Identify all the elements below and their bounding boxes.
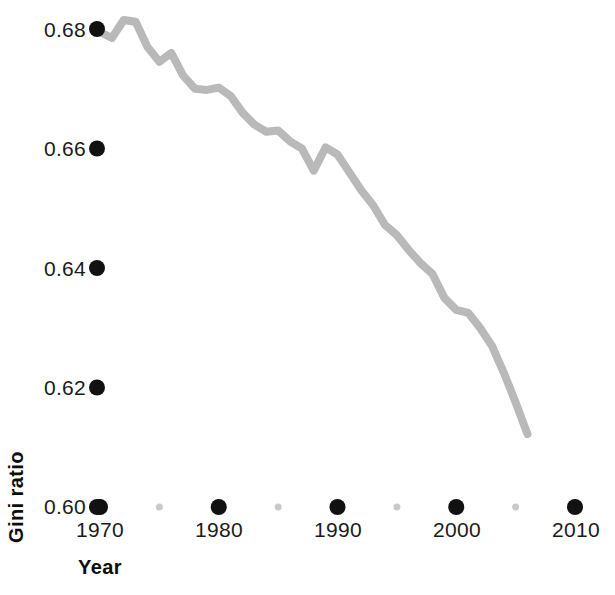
x-tick-dot-minor-2005 (512, 504, 519, 511)
y-tick-dot-06 (89, 499, 105, 515)
x-tick-label-2000: 2000 (412, 518, 502, 542)
y-tick-label-066: 0.66 (8, 137, 86, 161)
gini-ratio-series-line (100, 20, 528, 434)
x-tick-dot-2010 (567, 499, 583, 515)
x-tick-dot-minor-1995 (393, 504, 400, 511)
chart-plot-area (0, 0, 615, 595)
x-tick-dot-1990 (330, 499, 346, 515)
x-axis-title: Year (78, 556, 122, 579)
y-axis-tick-marks (89, 21, 105, 515)
x-tick-dot-minor-1985 (275, 504, 282, 511)
y-tick-dot-062 (89, 380, 105, 396)
x-axis-tick-marks (92, 499, 583, 515)
y-tick-dot-066 (89, 141, 105, 157)
x-tick-dot-1980 (211, 499, 227, 515)
y-tick-label-064: 0.64 (8, 257, 86, 281)
gini-ratio-line-chart: 0.68 0.66 0.64 0.62 0.60 1970 1980 1990 … (0, 0, 615, 595)
y-tick-dot-068 (89, 21, 105, 37)
y-tick-dot-064 (89, 260, 105, 276)
x-tick-label-1980: 1980 (174, 518, 264, 542)
x-tick-label-2010: 2010 (531, 518, 615, 542)
y-axis-title: Gini ratio (5, 451, 28, 543)
x-tick-label-1970: 1970 (55, 518, 145, 542)
x-tick-dot-2000 (448, 499, 464, 515)
y-tick-label-062: 0.62 (8, 376, 86, 400)
x-tick-dot-minor-1975 (156, 504, 163, 511)
y-tick-label-068: 0.68 (8, 18, 86, 42)
x-tick-label-1990: 1990 (293, 518, 383, 542)
